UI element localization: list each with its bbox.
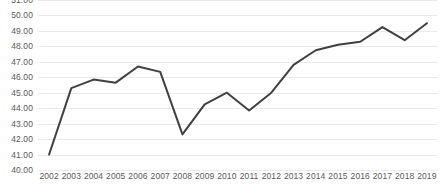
plot-area (38, 0, 438, 170)
x-axis-tick-label: 2012 (262, 172, 281, 181)
y-axis-tick-label: 40.00 (11, 166, 33, 175)
y-axis-tick-label: 50.00 (11, 11, 33, 20)
y-axis-tick-label: 51.00 (11, 0, 33, 4)
x-axis-tick-label: 2006 (128, 172, 147, 181)
x-axis-tick-label: 2004 (84, 172, 103, 181)
x-axis-tick-label: 2002 (39, 172, 58, 181)
x-axis-tick-label: 2013 (284, 172, 303, 181)
series-line-svg (38, 0, 438, 170)
x-axis-tick-label: 2018 (395, 172, 414, 181)
x-axis-tick-label: 2009 (195, 172, 214, 181)
x-axis-tick-label: 2014 (306, 172, 325, 181)
x-axis-tick-label: 2017 (373, 172, 392, 181)
x-axis-tick-label: 2011 (240, 172, 259, 181)
line-chart-figure: 51.0050.0049.0048.0047.0046.0045.0044.00… (0, 0, 441, 190)
series-line (49, 23, 427, 154)
x-axis-tick-label: 2016 (351, 172, 370, 181)
x-axis-tick-label: 2010 (217, 172, 236, 181)
x-axis-tick-label: 2005 (106, 172, 125, 181)
y-axis-tick-label: 48.00 (11, 42, 33, 51)
x-axis-tick-label: 2015 (328, 172, 347, 181)
x-axis-tick-label: 2008 (173, 172, 192, 181)
y-axis-tick-label: 47.00 (11, 58, 33, 67)
y-axis-tick-label: 41.00 (11, 150, 33, 159)
y-axis-tick-label: 49.00 (11, 27, 33, 36)
y-axis-tick-label: 43.00 (11, 119, 33, 128)
y-axis: 51.0050.0049.0048.0047.0046.0045.0044.00… (0, 0, 36, 170)
y-axis-tick-label: 45.00 (11, 88, 33, 97)
x-axis-tick-label: 2003 (62, 172, 81, 181)
x-axis-tick-label: 2007 (151, 172, 170, 181)
y-axis-tick-label: 42.00 (11, 135, 33, 144)
x-axis-tick-label: 2019 (417, 172, 436, 181)
y-axis-tick-label: 46.00 (11, 73, 33, 82)
y-axis-tick-label: 44.00 (11, 104, 33, 113)
x-axis: 2002200320042005200620072008200920102011… (38, 172, 438, 188)
